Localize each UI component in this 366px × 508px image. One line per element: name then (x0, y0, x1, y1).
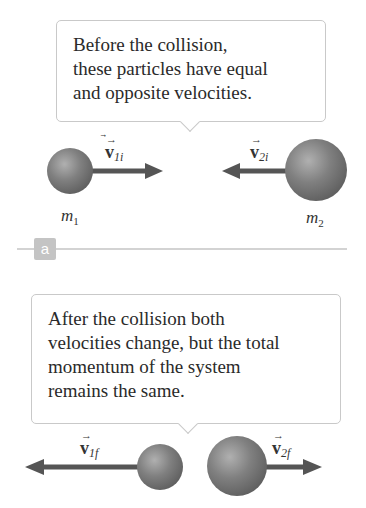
velocity-arrow-1i (85, 163, 163, 179)
velocity-label-1f: →v1f (80, 438, 98, 461)
particle-m1-after (137, 444, 183, 490)
particle-m2-after (207, 436, 267, 496)
particle-m1-before (47, 148, 93, 194)
panel-divider (17, 248, 347, 250)
velocity-arrow-2i (222, 163, 295, 179)
velocity-label-1i: ⃗→v1i (105, 142, 123, 165)
particle-m2-before (285, 139, 347, 201)
velocity-label-2i: →v2i (250, 142, 268, 165)
panel-tag-a: a (34, 238, 56, 260)
mass-label-m2: m2 (306, 208, 324, 229)
mass-label-m1: m1 (61, 206, 79, 227)
velocity-label-2f: →v2f (272, 438, 290, 461)
velocity-arrow-2f (265, 459, 322, 475)
velocity-arrow-1f (25, 459, 145, 475)
